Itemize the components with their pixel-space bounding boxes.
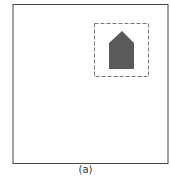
diagram-canvas [0, 0, 171, 182]
figure-caption: (a) [0, 164, 171, 175]
outer-frame [13, 5, 168, 164]
house-pentagon-shape [109, 31, 134, 69]
